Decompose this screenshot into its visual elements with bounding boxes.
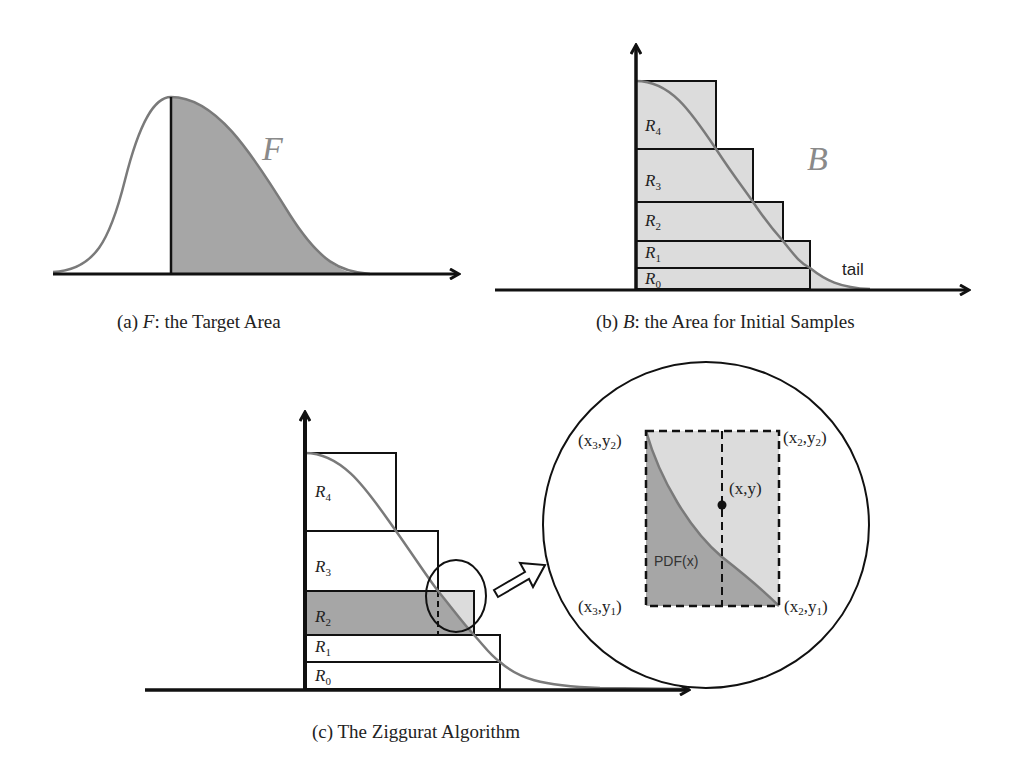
label-x3-y1: (x3,y1) bbox=[578, 597, 622, 617]
target-area-shaded bbox=[171, 97, 360, 274]
figure-canvas: F (a) F: the Target Area R4 R3 R2 R1 R0 … bbox=[0, 0, 1013, 777]
caption-b: (b) B: the Area for Initial Samples bbox=[596, 311, 855, 333]
label-x3-y2: (x3,y2) bbox=[578, 431, 622, 451]
label-R1-c: R1 bbox=[314, 637, 331, 658]
caption-c: (c) The Ziggurat Algorithm bbox=[312, 721, 520, 743]
rect-R1-c bbox=[305, 635, 500, 662]
panel-b: R4 R3 R2 R1 R0 B tail (b) B: the Area fo… bbox=[495, 46, 968, 333]
rect-R0-c bbox=[305, 662, 500, 689]
zoom-arrow-icon bbox=[494, 563, 545, 597]
panel-c: R4 R3 R2 R1 R0 (x3,y2) (x2,y2) (x3,y1) (… bbox=[145, 362, 869, 743]
label-tail: tail bbox=[842, 260, 864, 279]
label-R0-c: R0 bbox=[314, 666, 331, 687]
label-R3-c: R3 bbox=[314, 557, 331, 578]
label-x2-y1: (x2,y1) bbox=[784, 597, 828, 617]
caption-a: (a) F: the Target Area bbox=[117, 311, 281, 333]
label-x2-y2: (x2,y2) bbox=[783, 428, 827, 448]
ziggurat-figure: F (a) F: the Target Area R4 R3 R2 R1 R0 … bbox=[0, 0, 1013, 777]
label-point-xy: (x,y) bbox=[729, 479, 762, 498]
label-pdf: PDF(x) bbox=[654, 553, 698, 569]
label-B: B bbox=[807, 140, 828, 177]
label-F: F bbox=[261, 130, 284, 167]
panel-a: F (a) F: the Target Area bbox=[53, 97, 458, 333]
label-R4-c: R4 bbox=[314, 482, 331, 503]
sample-point bbox=[718, 501, 727, 510]
